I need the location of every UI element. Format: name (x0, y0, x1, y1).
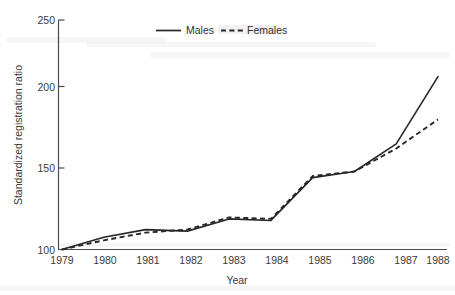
x-tick-label: 1981 (136, 254, 160, 266)
y-tick-label: 150 (37, 162, 55, 174)
y-tick-200: 200 (37, 81, 64, 93)
x-tick-label: 1983 (222, 254, 246, 266)
series-line-females (62, 119, 438, 249)
y-tick-label: 200 (37, 81, 55, 93)
x-tick-label: 1980 (93, 254, 117, 266)
y-tick-150: 150 (37, 162, 64, 174)
y-tick-label: 250 (37, 14, 55, 26)
x-tick-label: 1988 (426, 254, 450, 266)
x-tick-label: 1979 (50, 254, 74, 266)
x-tick-label: 1984 (265, 254, 289, 266)
y-axis: 250 200 150 100 Standardized registratio… (12, 14, 65, 256)
legend-label-males: Males (186, 24, 214, 36)
y-axis-title: Standardized registration ratio (12, 65, 24, 205)
x-tick-label: 1987 (394, 254, 418, 266)
legend-entry-males: Males (156, 24, 214, 36)
chart-canvas: 250 200 150 100 Standardized registratio… (0, 0, 455, 295)
plot-area (62, 77, 438, 250)
x-tick-label: 1986 (351, 254, 375, 266)
x-tick-label: 1982 (179, 254, 203, 266)
y-tick-250: 250 (37, 14, 64, 26)
x-axis: 1979 1980 1981 1982 1983 1984 1985 1986 … (50, 250, 450, 287)
x-axis-title: Year (226, 274, 248, 286)
series-line-males (62, 77, 438, 250)
legend-label-females: Females (247, 24, 287, 36)
x-tick-label: 1985 (308, 254, 332, 266)
scan-artifacts (0, 25, 455, 291)
line-chart: 250 200 150 100 Standardized registratio… (0, 0, 455, 295)
